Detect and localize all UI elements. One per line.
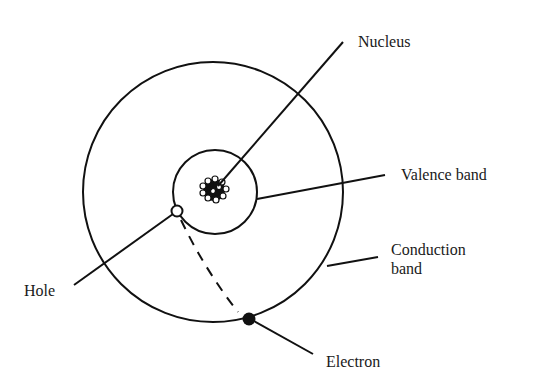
nucleus-icon xyxy=(200,176,229,203)
atom-diagram: Nucleus Valence band Conduction band Hol… xyxy=(0,0,540,392)
nucleus-label: Nucleus xyxy=(358,33,410,51)
diagram-canvas xyxy=(0,0,540,392)
hole-label: Hole xyxy=(24,282,55,300)
conduction-band-leader-line xyxy=(327,257,378,266)
conduction-band-label-line1: Conduction xyxy=(391,241,466,259)
valence-band-label: Valence band xyxy=(401,166,487,184)
hole-icon xyxy=(172,206,183,217)
electron-icon xyxy=(243,313,256,326)
hole-leader-line xyxy=(74,214,173,285)
valence-band-leader-line xyxy=(257,175,385,199)
electron-leader-line xyxy=(254,321,313,354)
electron-label: Electron xyxy=(326,353,380,371)
conduction-band-label-line2: band xyxy=(391,260,422,278)
